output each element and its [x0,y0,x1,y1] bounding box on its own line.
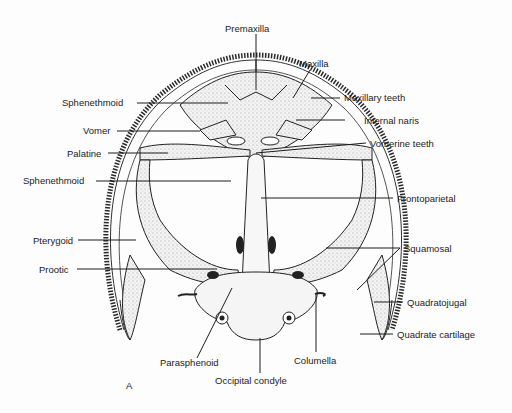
label-squamosal: Squamosal [404,243,452,254]
label-maxilla: Maxilla [299,58,329,69]
label-maxillary-teeth: Maxillary teeth [344,92,405,103]
label-occipital-condyle: Occipital condyle [215,375,287,386]
skull-diagram: Premaxilla Maxilla Maxillary teeth Sphen… [0,0,512,413]
label-sphenethmoid-upper: Sphenethmoid [62,97,123,108]
label-palatine: Palatine [67,148,101,159]
skull-illustration [0,0,512,413]
label-pterygoid: Pterygoid [33,235,73,246]
braincase [195,272,318,340]
label-quadratojugal: Quadratojugal [407,297,467,308]
label-sphenethmoid-lower: Sphenethmoid [23,175,84,186]
parasphenoid-process [242,154,270,285]
label-vomer: Vomer [83,125,110,136]
label-internal-naris: Internal naris [364,115,419,126]
label-vomerine-teeth: Vomerine teeth [370,138,434,149]
label-columella: Columella [294,355,336,366]
label-premaxilla: Premaxilla [225,23,269,34]
label-prootic: Prootic [39,264,69,275]
label-parasphenoid: Parasphenoid [160,357,219,368]
label-quadrate-cartilage: Quadrate cartilage [397,329,475,340]
label-frontoparietal: Frontoparietal [397,193,456,204]
panel-letter: A [126,380,132,391]
